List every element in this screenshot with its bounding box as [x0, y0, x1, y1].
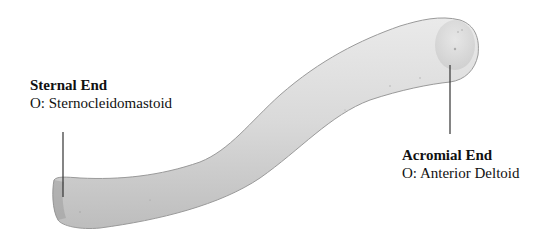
clavicle-illustration: [0, 0, 559, 242]
sternal-end-label: Sternal End O: Sternocleidomastoid: [30, 76, 172, 112]
acromial-end-title: Acromial End: [402, 146, 519, 164]
acromial-end-surface: [435, 20, 475, 70]
sternal-end-title: Sternal End: [30, 76, 172, 94]
acromial-end-origin: O: Anterior Deltoid: [402, 164, 519, 182]
acromial-end-label: Acromial End O: Anterior Deltoid: [402, 146, 519, 182]
sternal-end-origin: O: Sternocleidomastoid: [30, 94, 172, 112]
clavicle-bone: [53, 18, 479, 229]
